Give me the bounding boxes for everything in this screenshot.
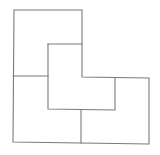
- l-tiling-diagram: [0, 0, 160, 155]
